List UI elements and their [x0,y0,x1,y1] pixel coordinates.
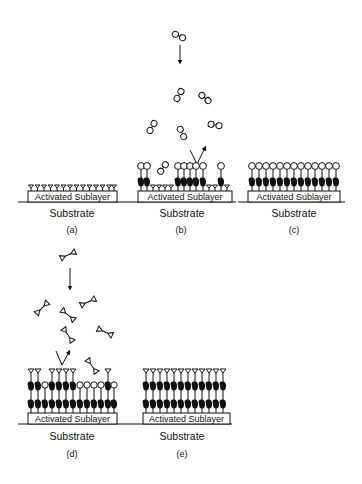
desorb-arrow [56,351,69,365]
adsorbed-molecules [138,163,230,191]
panel-caption: (a) [67,225,78,235]
monolayer-molecules [249,163,340,191]
panel-a: Activated Sublayer Substrate (a) [18,185,126,235]
panel-c: Activated Sublayer Substrate (c) [238,163,345,235]
self-assembly-diagram: Activated Sublayer Substrate (a) Activat… [0,0,362,484]
substrate-label: Substrate [50,207,95,219]
substrate-label: Substrate [272,207,317,219]
panel-e: Activated Sublayer Substrate (e) [126,369,232,459]
falling-molecules [146,30,223,175]
panel-caption: (b) [176,225,187,235]
y-terminals [29,185,117,191]
panel-caption: (c) [289,225,300,235]
desorb-arrow [190,148,205,164]
substrate-label: Substrate [160,430,205,442]
sublayer-label: Activated Sublayer [256,192,331,202]
bilayer-molecules [143,369,227,413]
sublayer-label: Activated Sublayer [35,192,110,202]
sublayer-label: Activated Sublayer [149,414,224,424]
panel-d: Activated Sublayer Substrate (d) [18,249,126,459]
panel-caption: (d) [67,449,78,459]
falling-molecules [34,249,113,374]
substrate-label: Substrate [160,207,205,219]
panel-caption: (e) [177,449,188,459]
sublayer-label: Activated Sublayer [35,414,110,424]
sublayer-label: Activated Sublayer [147,192,222,202]
panel-b: Activated Sublayer Substrate (b) [126,30,236,235]
substrate-label: Substrate [50,430,95,442]
bilayer-molecules [28,369,118,413]
